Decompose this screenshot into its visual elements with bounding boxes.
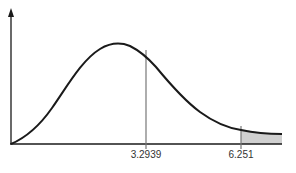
critical-label: 6.251 xyxy=(228,149,253,160)
y-axis-arrow-icon xyxy=(8,8,14,17)
density-chart xyxy=(0,0,296,173)
stat-label: 3.2939 xyxy=(131,149,162,160)
